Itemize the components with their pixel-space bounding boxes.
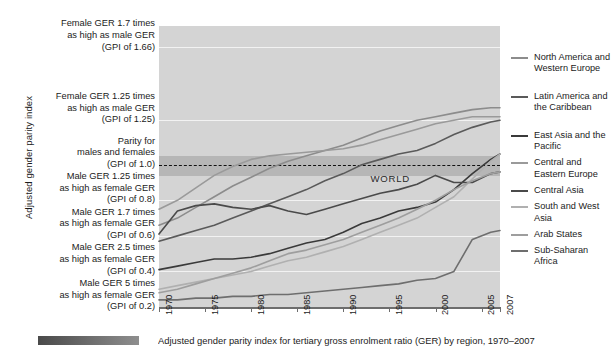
x-tick [500,307,501,312]
y-annotation-line: Male GER 2.5 times [18,242,155,254]
y-annotation-gpi-125: Female GER 1.25 timesas high as male GER… [18,91,155,126]
y-annotation-gpi-060: Male GER 1.7 timesas high as female GER(… [18,207,155,242]
y-annotation-line: Parity for [18,136,155,148]
plot-area: WORLD [159,26,500,307]
x-tick-label: 1970 [164,295,174,315]
chart-figure: Adjusted gender parity index Female GER … [0,0,611,346]
y-annotation-line: Female GER 1.25 times [18,91,155,103]
y-annotation-line: (GPI of 1.66) [18,42,155,54]
x-tick [251,307,252,312]
y-annotation-line: Male GER 1.25 times [18,171,155,183]
legend-label: Latin America and the Caribbean [534,91,611,114]
y-annotation-line: (GPI of 0.2) [18,301,155,313]
x-tick-label: 2007 [505,295,515,315]
x-tick-label: 1990 [348,295,358,315]
legend-label: North America and Western Europe [534,52,611,75]
legend-label: Central and Eastern Europe [534,157,611,180]
x-tick [205,307,206,312]
series-line-7 [159,231,500,300]
caption-color-bar [38,336,139,345]
legend-swatch-line [511,190,528,192]
y-annotation-line: as high as female GER [18,183,155,195]
y-annotation-line: (GPI of 0.6) [18,230,155,242]
legend-swatch-line [511,250,528,252]
x-tick-label: 1995 [394,295,404,315]
legend-label: South and West Asia [534,201,611,224]
y-axis-annotations: Female GER 1.7 timesas high as male GER(… [18,0,155,310]
x-tick-label: 1985 [302,295,312,315]
legend-swatch-line [511,57,528,59]
x-tick [389,307,390,312]
y-annotation-gpi-166: Female GER 1.7 timesas high as male GER(… [18,18,155,53]
y-annotation-gpi-100: Parity formales and females(GPI of 1.0) [18,136,155,171]
y-annotation-line: (GPI of 0.8) [18,194,155,206]
legend-swatch-line [511,206,528,208]
legend-swatch-line [511,162,528,164]
y-annotation-line: as high as female GER [18,254,155,266]
x-tick-label: 2000 [440,295,450,315]
y-annotation-line: males and females [18,147,155,159]
y-annotation-line: as high as male GER [18,30,155,42]
y-annotation-gpi-020: Male GER 5 timesas high as female GER(GP… [18,278,155,313]
x-tick [436,307,437,312]
x-tick-label: 1980 [256,295,266,315]
y-annotation-gpi-080: Male GER 1.25 timesas high as female GER… [18,171,155,206]
legend-swatch-line [511,234,528,236]
legend-swatch-line [511,96,528,98]
x-tick [343,307,344,312]
y-annotation-line: Female GER 1.7 times [18,18,155,30]
x-tick [297,307,298,312]
y-annotation-gpi-040: Male GER 2.5 timesas high as female GER(… [18,242,155,277]
legend-label: Central Asia [534,185,611,196]
x-tick-label: 1975 [210,295,220,315]
world-annotation: WORLD [371,173,410,184]
y-annotation-line: as high as female GER [18,218,155,230]
y-annotation-line: Male GER 1.7 times [18,207,155,219]
y-annotation-line: as high as female GER [18,290,155,302]
x-tick [482,307,483,312]
x-tick [159,307,160,312]
series-line-5 [159,154,500,289]
y-annotation-line: (GPI of 1.0) [18,159,155,171]
y-annotation-line: as high as male GER [18,103,155,115]
legend-label: Sub-Saharan Africa [534,245,611,268]
figure-caption: Adjusted gender parity index for tertiar… [158,335,610,346]
series-line-2 [159,154,500,270]
x-tick-label: 2005 [486,295,496,315]
series-line-4 [159,172,500,234]
legend-label: East Asia and the Pacific [534,130,611,153]
legend-label: Arab States [534,229,611,240]
series-lines [159,26,500,307]
y-annotation-line: Male GER 5 times [18,278,155,290]
legend-swatch-line [511,135,528,137]
series-line-3 [159,117,500,209]
y-annotation-line: (GPI of 0.4) [18,266,155,278]
series-line-6 [159,172,500,293]
y-annotation-line: (GPI of 1.25) [18,114,155,126]
